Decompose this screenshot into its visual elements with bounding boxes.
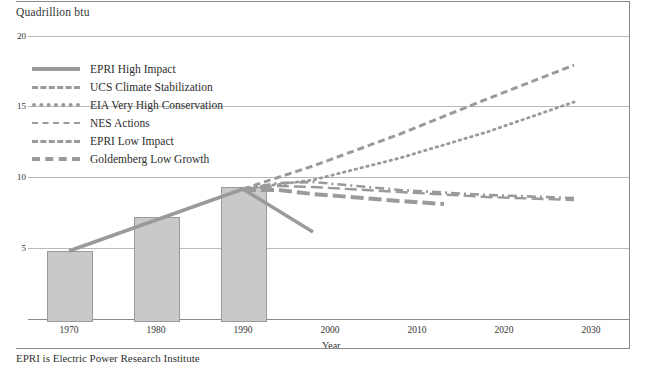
series-layer <box>0 0 645 378</box>
legend-swatch-medium-dash-icon <box>32 140 80 143</box>
legend-swatch-dotted-icon <box>32 103 80 107</box>
legend-item-eia-very-high-conservation: EIA Very High Conservation <box>32 96 223 114</box>
legend-swatch-thick-dash-icon <box>32 157 80 161</box>
legend-item-epri-low-impact: EPRI Low Impact <box>32 132 223 150</box>
series-ucs-climate-stabilization <box>243 182 574 198</box>
series-epri-low-impact <box>243 65 574 189</box>
legend-label: EPRI High Impact <box>90 63 176 75</box>
chart-container: Quadrillion btu 20 15 10 5 1970 1980 199… <box>0 0 645 378</box>
legend-item-nes-actions: NES Actions <box>32 114 223 132</box>
legend-label: EIA Very High Conservation <box>90 99 223 111</box>
footnote-rule <box>16 348 629 349</box>
legend-item-ucs-climate-stabilization: UCS Climate Stabilization <box>32 78 223 96</box>
series-nes-actions <box>243 186 574 200</box>
legend-swatch-solid-icon <box>32 67 80 71</box>
footnote-text: EPRI is Electric Power Research Institut… <box>16 352 200 364</box>
series-eia-very-high-conservation <box>243 102 574 189</box>
legend-item-goldemberg-low-growth: Goldemberg Low Growth <box>32 150 223 168</box>
legend-label: Goldemberg Low Growth <box>90 153 209 165</box>
legend-swatch-dash-dot-icon <box>32 86 80 89</box>
legend-item-epri-high-impact: EPRI High Impact <box>32 60 223 78</box>
legend-label: NES Actions <box>90 117 150 129</box>
legend-label: UCS Climate Stabilization <box>90 81 213 93</box>
legend-label: EPRI Low Impact <box>90 135 174 147</box>
legend: EPRI High Impact UCS Climate Stabilizati… <box>32 60 223 168</box>
legend-swatch-long-dash-icon <box>32 122 80 124</box>
series-epri-high-impact <box>69 189 313 251</box>
